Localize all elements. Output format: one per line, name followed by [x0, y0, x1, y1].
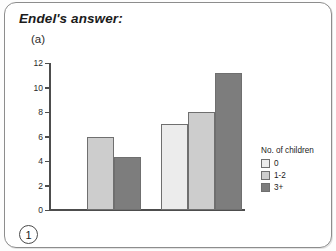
y-tick-label: 2: [38, 181, 43, 191]
bar: [215, 73, 242, 210]
page-number-badge: 1: [19, 225, 38, 244]
legend-swatch: [261, 183, 270, 192]
bar-chart: 024681012: [33, 63, 233, 215]
y-tick-label: 0: [38, 205, 43, 215]
bar-series-container: [51, 63, 245, 210]
bar: [161, 124, 188, 210]
bar: [114, 157, 141, 210]
chart-legend: No. of children 01-23+: [261, 146, 331, 195]
legend-title: No. of children: [261, 146, 331, 155]
bar: [87, 137, 114, 211]
legend-label: 1-2: [274, 171, 286, 180]
legend-items: 01-23+: [261, 159, 331, 192]
y-tick-label: 12: [34, 58, 43, 68]
y-tick-label: 6: [38, 132, 43, 142]
legend-swatch: [261, 171, 270, 180]
y-tick-label: 4: [38, 156, 43, 166]
part-label: (a): [31, 33, 45, 45]
legend-swatch: [261, 159, 270, 168]
legend-item: 0: [261, 159, 331, 168]
answer-card: Endel's answer: (a) 024681012 No. of chi…: [4, 2, 332, 248]
y-tick-label: 10: [34, 83, 43, 93]
page-title: Endel's answer:: [19, 11, 123, 26]
bar: [188, 112, 215, 210]
legend-label: 3+: [274, 183, 283, 192]
y-tick-label: 8: [38, 107, 43, 117]
page-root: Endel's answer: (a) 024681012 No. of chi…: [0, 0, 336, 251]
legend-label: 0: [274, 159, 279, 168]
legend-item: 1-2: [261, 171, 331, 180]
legend-item: 3+: [261, 183, 331, 192]
